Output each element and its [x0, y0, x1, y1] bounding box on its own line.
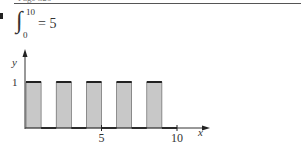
- step-function-graph: 510 1 x y: [0, 0, 301, 152]
- x-tick-label: 5: [99, 131, 105, 145]
- bar-2: [56, 82, 71, 128]
- y-axis-arrow-icon: [23, 49, 28, 57]
- x-tick-label: 10: [171, 131, 183, 145]
- bar-4: [117, 82, 132, 128]
- bar-3: [86, 82, 101, 128]
- shaded-bars: [26, 82, 162, 128]
- y-tick-label: 1: [12, 76, 18, 88]
- x-axis-label: x: [197, 126, 203, 138]
- x-axis-arrow-icon: [202, 126, 210, 131]
- bar-5: [147, 82, 162, 128]
- y-ticks: 1: [12, 76, 18, 88]
- y-axis-label: y: [11, 56, 17, 68]
- bar-1: [26, 82, 41, 128]
